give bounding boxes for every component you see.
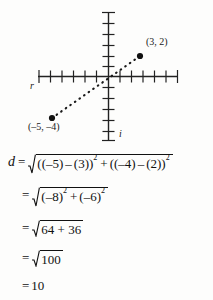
radicand-2: (–8) 2 + (–6) 2 (40, 187, 108, 207)
term2-open-1: ((–4) (110, 156, 136, 172)
point-marker-3-2 (137, 53, 143, 59)
radical-3: 64 + 36 (32, 220, 83, 238)
math-line-5: = 10 (22, 278, 44, 294)
radicand-4: 100 (40, 250, 63, 268)
equals-sign-3: = (22, 220, 31, 236)
point-label-neg5-neg4: (–5, –4) (28, 122, 60, 132)
equals-sign-2: = (22, 187, 31, 203)
radicand-3: 64 + 36 (40, 220, 83, 238)
radical-2: (–8) 2 + (–6) 2 (32, 187, 108, 207)
distance-segment (52, 56, 140, 118)
plus-sign-2: + (68, 189, 79, 205)
plus-sign-1: + (98, 156, 109, 172)
equals-sign-5: = (22, 278, 31, 294)
distance-formula-work: d = ((–5) – (3)) 2 + ((–4) – (2)) 2 (0, 149, 213, 300)
radicand-1: ((–5) – (3)) 2 + ((–4) – (2)) 2 (36, 154, 172, 174)
radical-sign-icon (32, 250, 40, 267)
math-line-3: = 64 + 36 (22, 220, 83, 238)
radical-sign-icon (32, 220, 40, 237)
radical-4: 100 (32, 250, 63, 268)
exponent-2b: 2 (101, 186, 106, 195)
complex-plane-graph: r i (3, 2) (–5, –4) (0, 0, 213, 148)
exponent-1a: 2 (93, 153, 98, 162)
equals-sign-1: = (18, 154, 27, 170)
math-line-4: = 100 (22, 250, 63, 268)
exponent-2a: 2 (63, 186, 68, 195)
variable-d: d (8, 154, 18, 170)
exponent-1b: 2 (166, 153, 171, 162)
equals-sign-4: = (22, 250, 31, 266)
math-line-2: = (–8) 2 + (–6) 2 (22, 187, 108, 207)
radical-sign-icon (28, 154, 36, 174)
term1-open-1: ((–5) (37, 156, 63, 172)
real-axis-label: r (30, 81, 34, 91)
imaginary-axis-label: i (119, 129, 122, 139)
radical-sign-icon (32, 187, 40, 207)
term1-close-1: (3)) (74, 156, 94, 172)
term2-close-1: (2)) (146, 156, 166, 172)
math-line-1: d = ((–5) – (3)) 2 + ((–4) – (2)) 2 (8, 154, 173, 174)
final-value: 10 (31, 278, 44, 294)
radical-1: ((–5) – (3)) 2 + ((–4) – (2)) 2 (28, 154, 172, 174)
term2-2: (–6) (79, 189, 101, 205)
minus-sign-1b: – (136, 156, 147, 172)
minus-sign-1a: – (63, 156, 74, 172)
term1-2: (–8) (41, 189, 63, 205)
point-label-3-2: (3, 2) (146, 37, 168, 47)
page-root: r i (3, 2) (–5, –4) d = ((–5) – (3)) 2 +… (0, 0, 213, 300)
